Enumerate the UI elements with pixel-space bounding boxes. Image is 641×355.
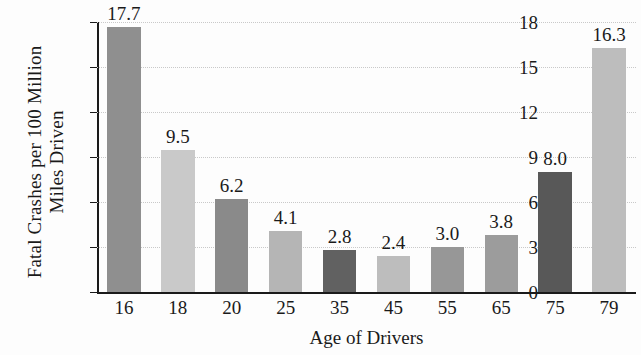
y-tick [90, 247, 97, 248]
y-tick-label: 9 [498, 148, 538, 167]
bar-item: 8.0 [538, 22, 571, 292]
bar-value-label: 2.4 [382, 233, 406, 252]
bar-value-label: 2.8 [328, 227, 352, 246]
bar [431, 247, 464, 292]
bar [269, 231, 302, 293]
bar-value-label: 17.7 [107, 4, 140, 23]
y-tick-label: 15 [498, 58, 538, 77]
bar-value-label: 16.3 [592, 25, 625, 44]
bar-chart: Fatal Crashes per 100 Million Miles Driv… [0, 0, 641, 355]
x-tick-label: 79 [584, 298, 634, 317]
bar-item: 3.0 [431, 22, 464, 292]
y-axis-title-line-2: Miles Driven [46, 12, 68, 312]
bar-value-label: 9.5 [166, 127, 190, 146]
bar-item: 6.2 [215, 22, 248, 292]
x-axis-title: Age of Drivers [97, 328, 636, 348]
bar-value-label: 3.0 [435, 224, 459, 243]
bar [592, 48, 625, 293]
bar [107, 27, 140, 293]
bar-value-label: 8.0 [543, 149, 567, 168]
x-tick-label: 18 [153, 298, 203, 317]
bar [538, 172, 571, 292]
bar [323, 250, 356, 292]
y-tick [90, 157, 97, 158]
x-tick-label: 55 [422, 298, 472, 317]
y-tick-label: 18 [498, 13, 538, 32]
bar-item: 17.7 [107, 22, 140, 292]
y-tick [90, 292, 97, 293]
y-tick [90, 202, 97, 203]
y-tick [90, 67, 97, 68]
bar [161, 150, 194, 293]
y-tick-label: 3 [498, 238, 538, 257]
y-axis-title: Fatal Crashes per 100 Million Miles Driv… [24, 12, 68, 312]
bar [377, 256, 410, 292]
x-axis-line [97, 292, 636, 294]
plot-area: 17.79.56.24.12.82.43.03.88.016.3 [97, 22, 636, 292]
x-tick-label: 65 [476, 298, 526, 317]
bar-item: 4.1 [269, 22, 302, 292]
x-tick-label: 25 [261, 298, 311, 317]
y-tick [90, 112, 97, 113]
bar-series: 17.79.56.24.12.82.43.03.88.016.3 [97, 22, 636, 292]
y-tick-label: 12 [498, 103, 538, 122]
y-tick-label: 6 [498, 193, 538, 212]
y-axis-title-line-1: Fatal Crashes per 100 Million [24, 12, 46, 312]
bar-value-label: 3.8 [489, 212, 513, 231]
bar-item: 16.3 [592, 22, 625, 292]
y-tick [90, 22, 97, 23]
bar [215, 199, 248, 292]
bar-item: 2.8 [323, 22, 356, 292]
bar-item: 9.5 [161, 22, 194, 292]
bar-value-label: 6.2 [220, 176, 244, 195]
x-tick-label: 35 [315, 298, 365, 317]
bar-value-label: 4.1 [274, 208, 298, 227]
x-tick-label: 75 [530, 298, 580, 317]
x-tick-label: 16 [99, 298, 149, 317]
x-tick-label: 45 [368, 298, 418, 317]
bar-item: 2.4 [377, 22, 410, 292]
x-tick-label: 20 [207, 298, 257, 317]
